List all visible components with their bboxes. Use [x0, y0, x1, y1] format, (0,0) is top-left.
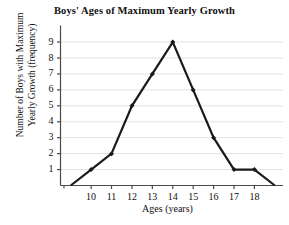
x-axis-tick-label: 14	[163, 191, 183, 202]
y-axis-tick-label: 2	[40, 147, 54, 158]
y-axis-tick-label: 3	[40, 131, 54, 142]
x-axis-tick-label: 18	[244, 191, 264, 202]
x-axis-tick-label: 12	[122, 191, 142, 202]
y-axis-tick-label: 6	[40, 83, 54, 94]
grid-lines	[61, 42, 284, 170]
x-axis-tick-label: 13	[142, 191, 162, 202]
x-axis-tick-label: 15	[183, 191, 203, 202]
chart-figure: Boys' Ages of Maximum Yearly Growth Numb…	[0, 0, 289, 225]
y-axis-tick-label: 4	[40, 115, 54, 126]
x-axis-tick-label: 17	[224, 191, 244, 202]
y-axis-tick-label: 7	[40, 67, 54, 78]
y-axis-tick-label: 5	[40, 99, 54, 110]
y-axis-tick-label: 1	[40, 163, 54, 174]
data-series-line	[71, 42, 275, 185]
y-axis-tick-label: 9	[40, 36, 54, 47]
x-axis-tick-label: 11	[102, 191, 122, 202]
x-axis-tick-label: 16	[204, 191, 224, 202]
x-axis-tick-label: 10	[81, 191, 101, 202]
y-axis-tick-label: 8	[40, 52, 54, 63]
